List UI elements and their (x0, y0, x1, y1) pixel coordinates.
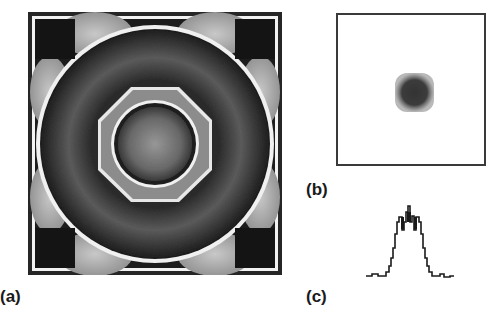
panel-c-label: (c) (306, 288, 327, 305)
panel-b-label: (b) (306, 181, 328, 198)
profile-plot (360, 200, 460, 282)
panel-a-intensity-map (28, 12, 282, 275)
panel-b-spot-image (336, 13, 486, 166)
intensity-map-image (28, 12, 282, 275)
panel-c-line-profile (360, 200, 460, 282)
panel-a-label: (a) (0, 288, 21, 305)
spot-image (336, 13, 486, 166)
